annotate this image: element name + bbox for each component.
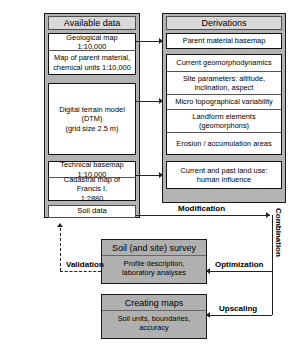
row-label: Erosion / accumulation areas [176, 139, 271, 148]
row-label: Current geomorphodynamics [176, 58, 271, 67]
row-micro-topographical-variability: Micro topographical variability [167, 94, 281, 109]
row-label: Landform elements (geomorphons) [192, 112, 255, 130]
connector-optimization [210, 271, 272, 272]
row-label: Cadastral map of Francis I. 1:2880 [51, 175, 133, 202]
connector-basemap-to-landuse [136, 175, 160, 176]
derivations-header: Derivations [166, 16, 282, 30]
arrow-basemap-to-landuse [159, 172, 163, 178]
available-data-header: Available data [48, 16, 136, 30]
row-label: Digital terrain model (DTM) (grid size 2… [51, 105, 133, 132]
row-landform-elements: Landform elements (geomorphons) [167, 109, 281, 132]
arrow-geology-to-parent [159, 38, 163, 44]
label-optimization: Optimization [215, 260, 263, 269]
label-combination: Combination [274, 208, 283, 257]
row-dtm: Digital terrain model (DTM) (grid size 2… [49, 84, 135, 154]
row-land-use: Current and past land use: human influen… [167, 162, 281, 188]
row-label: Current and past land use: human influen… [180, 166, 267, 184]
label-validation: Validation [66, 260, 104, 269]
connector-validation-horizontal [60, 271, 101, 272]
row-soil-data: Soil data [48, 205, 136, 218]
row-erosion-accumulation: Erosion / accumulation areas [167, 132, 281, 154]
connector-upscaling [210, 315, 272, 316]
label-modification: Modification [178, 204, 225, 213]
row-geomorphodynamics: Current geomorphodynamics [167, 55, 281, 71]
arrow-validation [57, 223, 63, 227]
row-parent-material-map: Map of parent material, chemical units 1… [49, 50, 135, 74]
row-parent-material-basemap: Parent material basemap [167, 34, 281, 48]
row-label: Soil data [77, 207, 107, 216]
arrow-modification [266, 212, 270, 218]
row-label: Geological map 1:10,000 [51, 33, 133, 51]
creating-maps-title: Creating maps [101, 298, 207, 308]
arrow-dtm-to-micro [159, 98, 163, 104]
soil-survey-title: Soil (and site) survey [101, 243, 207, 253]
row-cadastral-map: Cadastral map of Francis I. 1:2880 [49, 177, 135, 200]
soil-survey-subtitle: Profile description, laboratory analyses [101, 259, 207, 277]
row-geological-map: Geological map 1:10,000 [49, 34, 135, 50]
label-upscaling: Upscaling [219, 304, 257, 313]
soil-survey-divider [102, 255, 206, 256]
arrow-upscaling [206, 312, 210, 318]
rail-combination [272, 215, 273, 315]
creating-maps-divider [102, 310, 206, 311]
connector-modification [136, 215, 270, 216]
diagram-canvas: Available data Geological map 1:10,000 M… [0, 0, 300, 350]
connector-validation-vertical [60, 228, 61, 271]
arrow-optimization [206, 268, 210, 274]
row-site-parameters: Site parameters: altitude, inclination, … [167, 71, 281, 94]
creating-maps-subtitle: Soil units, boundaries, accuracy [101, 314, 207, 332]
connector-geology-to-parent [136, 41, 160, 42]
row-label: Map of parent material, chemical units 1… [53, 53, 131, 71]
row-label: Parent material basemap [183, 36, 266, 45]
connector-dtm-to-micro [136, 101, 160, 102]
row-label: Micro topographical variability [175, 97, 272, 106]
row-label: Site parameters: altitude, inclination, … [183, 74, 265, 92]
